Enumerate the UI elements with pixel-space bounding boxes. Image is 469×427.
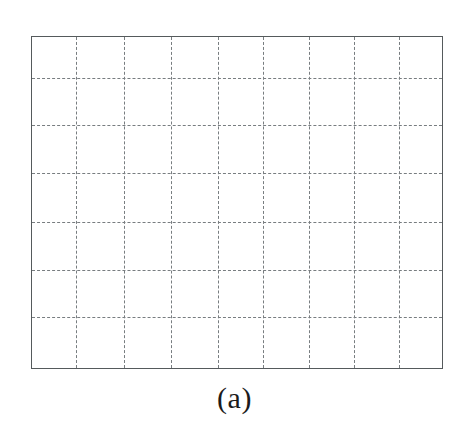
gridline-vertical — [263, 37, 264, 368]
figure-panel: (a) — [0, 0, 469, 427]
gridline-horizontal — [32, 173, 442, 174]
gridline-horizontal — [32, 317, 442, 318]
plot-frame — [31, 36, 443, 369]
gridline-horizontal — [32, 125, 442, 126]
gridline-horizontal — [32, 222, 442, 223]
figure-caption: (a) — [0, 378, 469, 418]
gridline-vertical — [399, 37, 400, 368]
grid-layer — [32, 37, 442, 368]
gridline-vertical — [309, 37, 310, 368]
gridline-horizontal — [32, 270, 442, 271]
gridline-vertical — [76, 37, 77, 368]
gridline-vertical — [354, 37, 355, 368]
gridline-vertical — [124, 37, 125, 368]
gridline-vertical — [218, 37, 219, 368]
gridline-vertical — [171, 37, 172, 368]
gridline-horizontal — [32, 78, 442, 79]
